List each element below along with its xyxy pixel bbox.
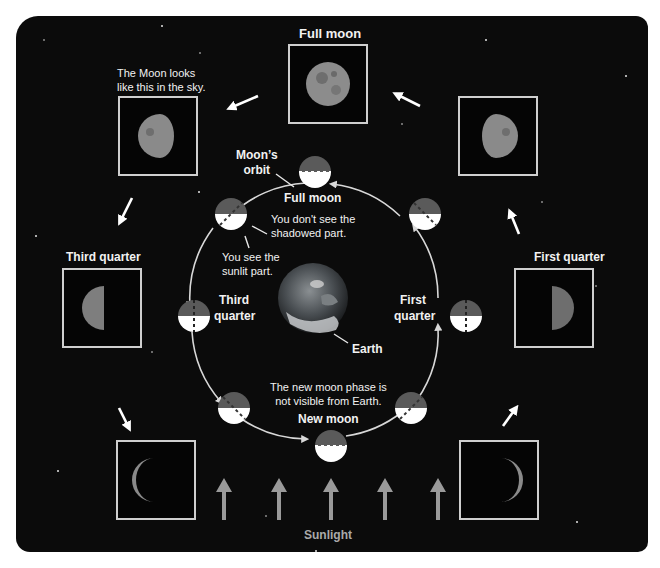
label-earth: Earth — [352, 342, 383, 356]
sky-note: The Moon looks like this in the sky. — [117, 66, 205, 94]
label-sunlight: Sunlight — [304, 528, 352, 542]
label-full-moon-photo: Full moon — [299, 26, 361, 41]
diagram-panel: Full moon The Moon looks like this in th… — [16, 16, 648, 552]
sky-note-line2: like this in the sky. — [117, 80, 205, 94]
label-orbit-first-quarter: First quarter — [394, 292, 435, 324]
first-line1: First — [394, 292, 435, 308]
sunlit-note-line2: sunlit part. — [222, 264, 280, 278]
label-first-quarter-photo: First quarter — [534, 250, 605, 264]
label-new-moon: New moon — [298, 412, 359, 426]
sky-note-line1: The Moon looks — [117, 66, 205, 80]
third-line2: quarter — [214, 308, 255, 324]
new-moon-note: The new moon phase is not visible from E… — [270, 380, 387, 408]
shadowed-note-line2: shadowed part. — [271, 226, 355, 240]
label-third-quarter-photo: Third quarter — [66, 250, 141, 264]
third-line1: Third — [214, 292, 255, 308]
shadowed-note: You don't see the shadowed part. — [271, 212, 355, 240]
orbit-label-line1: Moon’s — [236, 148, 278, 163]
new-moon-note-line1: The new moon phase is — [270, 380, 387, 394]
first-line2: quarter — [394, 308, 435, 324]
sunlight-arrows — [16, 16, 648, 552]
orbit-label-line2: orbit — [236, 163, 278, 178]
new-moon-note-line2: not visible from Earth. — [270, 394, 387, 408]
sunlit-note-line1: You see the — [222, 250, 280, 264]
label-orbit-third-quarter: Third quarter — [214, 292, 255, 324]
label-orbit-full-moon: Full moon — [284, 191, 341, 205]
orbit-label: Moon’s orbit — [236, 148, 278, 178]
arrow-icon — [216, 478, 446, 520]
shadowed-note-line1: You don't see the — [271, 212, 355, 226]
sunlit-note: You see the sunlit part. — [222, 250, 280, 278]
